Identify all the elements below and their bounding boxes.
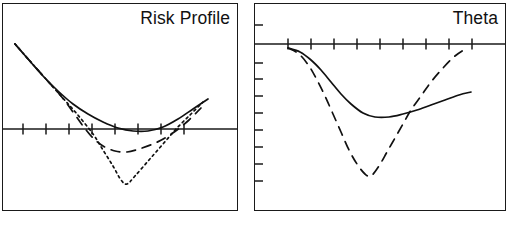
panel-theta: Theta bbox=[254, 3, 506, 211]
risk-profile-plot bbox=[3, 4, 238, 211]
series-intermediate-date bbox=[15, 44, 201, 152]
series-total-position bbox=[15, 44, 208, 131]
panel-risk-profile: Risk Profile bbox=[2, 3, 238, 211]
series-expiration-payoff bbox=[15, 44, 203, 184]
theta-plot bbox=[255, 4, 506, 211]
series-theta-curve-dashed bbox=[288, 48, 467, 177]
series-theta-curve-solid bbox=[288, 48, 471, 117]
chart-figure: Risk Profile Theta bbox=[0, 0, 507, 229]
